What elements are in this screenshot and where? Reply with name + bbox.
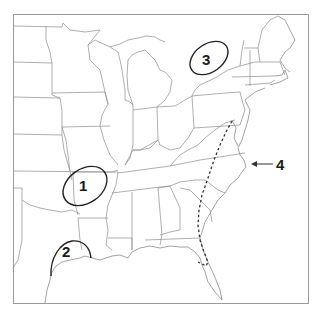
marker-label-3: 3 [202, 52, 210, 67]
map-canvas [0, 0, 323, 313]
marker-label-2: 2 [62, 244, 70, 259]
marker-label-4: 4 [276, 157, 284, 172]
map-frame [14, 15, 309, 304]
marker-label-1: 1 [79, 178, 87, 193]
